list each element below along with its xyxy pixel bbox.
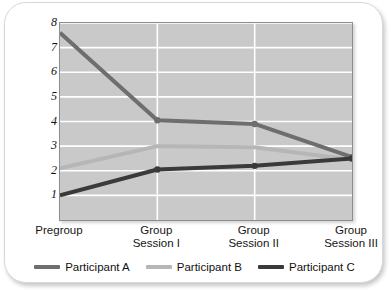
y-axis-tick-label: 4	[43, 115, 57, 127]
y-axis-tick-label: 2	[43, 164, 57, 176]
chart-card: Inches of perceived movement 12345678 Pr…	[4, 2, 383, 283]
y-axis-tick-label: 5	[43, 90, 57, 102]
y-axis-tick-label: 1	[43, 188, 57, 200]
chart-legend: Participant AParticipant BParticipant C	[5, 261, 384, 273]
legend-item[interactable]: Participant A	[34, 261, 130, 273]
legend-swatch-icon	[258, 265, 284, 269]
x-axis-tick-label-line: Session III	[303, 237, 391, 250]
series-line	[60, 158, 352, 195]
y-axis-tick-label: 8	[43, 16, 57, 28]
x-axis-tick-labels: PregroupGroupSession IGroupSession IIGro…	[59, 224, 353, 258]
legend-label: Participant C	[289, 261, 355, 273]
y-axis-tick-label: 3	[43, 139, 57, 151]
line-chart-svg	[60, 23, 352, 220]
legend-label: Participant B	[177, 261, 242, 273]
x-axis-tick-label-line: Session II	[206, 237, 302, 250]
legend-item[interactable]: Participant C	[258, 261, 355, 273]
legend-label: Participant A	[65, 261, 130, 273]
y-axis-tick-labels: 12345678	[41, 22, 57, 221]
x-axis-tick-label-line: Pregroup	[11, 224, 107, 237]
x-axis-tick-label-line: Session I	[108, 237, 204, 250]
legend-swatch-icon	[146, 265, 172, 269]
y-axis-tick-label: 7	[43, 41, 57, 53]
data-point-marker	[251, 121, 257, 127]
data-point-marker	[251, 163, 257, 169]
data-point-marker	[154, 166, 160, 172]
series-line	[60, 33, 352, 157]
x-axis-tick-label: GroupSession II	[206, 224, 302, 249]
y-axis-tick-label: 6	[43, 65, 57, 77]
x-axis-tick-label: GroupSession III	[303, 224, 391, 249]
data-point-marker	[154, 117, 160, 123]
x-axis-tick-label-line: Group	[108, 224, 204, 237]
series-line	[60, 146, 352, 168]
legend-swatch-icon	[34, 265, 60, 269]
legend-item[interactable]: Participant B	[146, 261, 242, 273]
plot-area	[59, 22, 353, 221]
x-axis-tick-label: GroupSession I	[108, 224, 204, 249]
x-axis-tick-label-line: Group	[303, 224, 391, 237]
x-axis-tick-label-line: Group	[206, 224, 302, 237]
x-axis-tick-label: Pregroup	[11, 224, 107, 237]
